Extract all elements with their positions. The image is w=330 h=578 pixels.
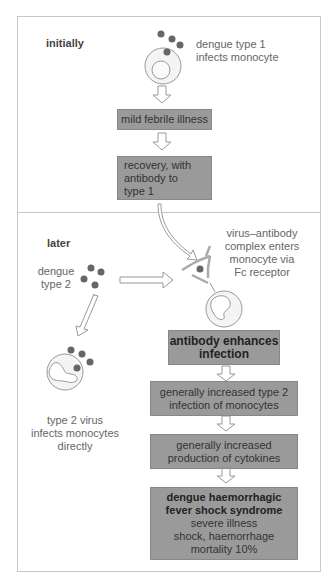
diagonal-arrow-icon	[76, 294, 98, 336]
box-antibody-enhances: antibody enhances infection	[168, 330, 280, 365]
box-increased-infection: generally increased type 2 infection of …	[150, 381, 298, 416]
caption-dengue-type2: dengue type 2	[36, 265, 76, 291]
box-mild-febrile-illness: mild febrile illness	[117, 109, 212, 130]
monocyte-icon	[145, 48, 181, 84]
virus-particles-type2-icon	[81, 265, 105, 289]
caption-complex-enters: virus–antibody complex enters monocyte v…	[224, 227, 300, 279]
box-increased-cytokines: generally increased production of cytoki…	[150, 434, 298, 469]
box-recovery-antibody: recovery, with antibody to type 1	[117, 156, 212, 200]
caption-dengue-type1: dengue type 1 infects monocyte	[196, 38, 279, 64]
monocyte-direct-icon	[47, 354, 83, 390]
box-dengue-haemorrhagic-fever: dengue haemorrhagic fever shock syndrome…	[150, 487, 298, 560]
curved-arrow-icon	[158, 204, 197, 260]
section-label-initially: initially	[46, 37, 84, 49]
right-arrow-icon	[120, 272, 173, 288]
monocyte-fc-icon	[206, 283, 242, 327]
section-label-later: later	[47, 237, 70, 249]
caption-direct-infection: type 2 virus infects monocytes directly	[28, 414, 122, 453]
